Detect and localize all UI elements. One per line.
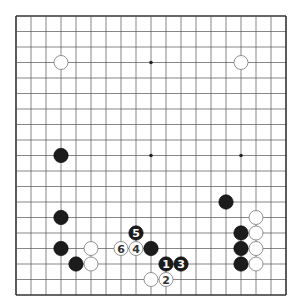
black-stone-move-3: 3 (174, 257, 188, 271)
white-stone-move-6: 6 (114, 242, 128, 256)
white-stone (144, 273, 158, 287)
black-stone-move-5: 5 (129, 226, 143, 240)
black-stone-move-1: 1 (159, 257, 173, 271)
white-stone-move-4: 4 (129, 242, 143, 256)
white-stone (54, 56, 68, 70)
move-number: 6 (117, 243, 125, 256)
move-number: 2 (162, 274, 170, 287)
star-point (149, 154, 153, 158)
white-stone (249, 257, 263, 271)
white-stone-move-2: 2 (159, 273, 173, 287)
black-stone (69, 257, 83, 271)
move-number: 1 (162, 258, 170, 271)
white-stone (249, 211, 263, 225)
black-stone (144, 241, 158, 255)
black-stone (219, 195, 233, 209)
black-stone (54, 241, 68, 255)
star-point (149, 61, 153, 65)
white-stone (84, 257, 98, 271)
black-stone (54, 210, 68, 224)
black-stone (234, 257, 248, 271)
white-stone (249, 226, 263, 240)
move-number: 5 (132, 227, 140, 240)
white-stone (234, 56, 248, 70)
black-stone (234, 226, 248, 240)
go-board: 564132 (0, 0, 302, 308)
star-point (239, 154, 243, 158)
white-stone (84, 242, 98, 256)
move-number: 3 (177, 258, 185, 271)
black-stone (234, 241, 248, 255)
move-number: 4 (132, 243, 140, 256)
black-stone (54, 148, 68, 162)
white-stone (249, 242, 263, 256)
